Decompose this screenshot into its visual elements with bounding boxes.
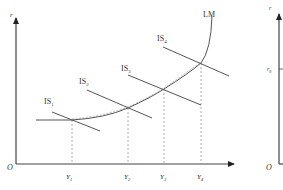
lm-dashed-path <box>72 62 201 119</box>
is2-label: IS2 <box>79 77 89 87</box>
is2-curve <box>87 90 152 118</box>
is3-label: IS3 <box>121 64 131 74</box>
y3-label: Y3 <box>160 173 167 182</box>
is1-label: IS1 <box>44 97 54 107</box>
is4-label: IS4 <box>157 34 167 44</box>
is-lm-diagram: r O LM IS1 IS2 IS3 IS4 Y1 Y2 Y3 Y4 r r0 … <box>0 0 283 190</box>
y2-label: Y2 <box>124 173 131 182</box>
origin-label: O <box>7 163 13 172</box>
lm-label: LM <box>203 10 215 19</box>
right-origin-label: O <box>266 163 272 172</box>
right-y-axis-label: r <box>269 5 272 11</box>
y4-label: Y4 <box>197 173 204 182</box>
is3-curve <box>128 75 201 105</box>
is1-curve <box>52 112 100 131</box>
y1-label: Y1 <box>66 173 72 182</box>
r0-label: r0 <box>267 66 271 74</box>
is4-curve <box>163 47 229 76</box>
y-axis-label: r <box>10 11 13 19</box>
